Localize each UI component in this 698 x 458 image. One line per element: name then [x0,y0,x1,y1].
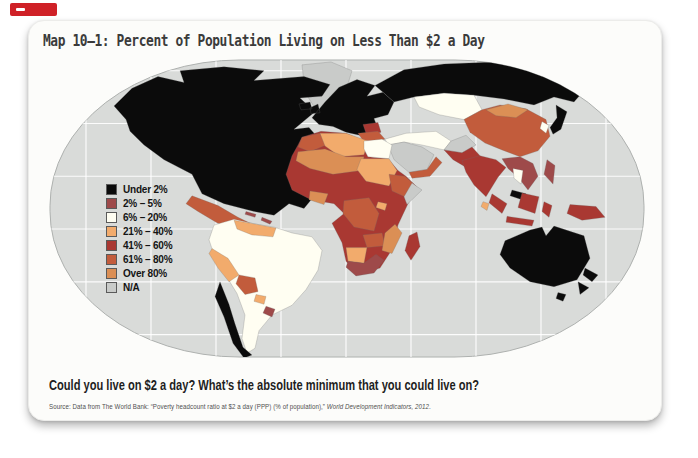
red-corner-tab [10,3,57,16]
legend-label: N/A [123,282,140,293]
source-text: Source: Data from The World Bank: “Pover… [49,402,327,411]
legend-item: 6% – 20% [106,212,216,223]
figure-card: Map 10–1: Percent of Population Living o… [28,20,662,421]
tab-dash [16,8,25,11]
legend-item: 61% – 80% [106,254,216,265]
region-namibia-botswana [346,248,367,264]
region-zambia-zimbabwe [363,233,385,248]
legend-label: 6% – 20% [123,212,167,223]
discussion-question: Could you live on $2 a day? What’s the a… [49,376,479,393]
legend-swatch [106,184,117,195]
legend-item: Under 2% [106,184,216,195]
source-period: . [429,402,431,411]
legend-swatch [106,240,117,251]
legend-item: Over 80% [106,268,216,279]
legend-label: 41% – 60% [123,240,172,251]
legend-item: 41% – 60% [106,240,216,251]
map-legend: Under 2% 2% – 5% 6% – 20% 21% – 40% 41% … [106,184,216,296]
legend-label: 61% – 80% [123,254,172,265]
legend-swatch [106,254,117,265]
source-publication: World Development Indicators, 2012 [327,402,429,411]
legend-swatch [106,268,117,279]
legend-label: Under 2% [123,184,168,195]
legend-label: Over 80% [123,268,167,279]
legend-item: 2% – 5% [106,198,216,209]
legend-label: 21% – 40% [123,226,172,237]
legend-swatch [106,212,117,223]
figure-title: Map 10–1: Percent of Population Living o… [43,31,485,50]
world-map: Under 2% 2% – 5% 6% – 20% 21% – 40% 41% … [49,59,645,359]
legend-swatch [106,282,117,293]
source-citation: Source: Data from The World Bank: “Pover… [49,402,431,411]
legend-swatch [106,226,117,237]
legend-item: 21% – 40% [106,226,216,237]
legend-swatch [106,198,117,209]
legend-label: 2% – 5% [123,198,162,209]
legend-item: N/A [106,282,216,293]
figure-page: Map 10–1: Percent of Population Living o… [0,0,698,458]
